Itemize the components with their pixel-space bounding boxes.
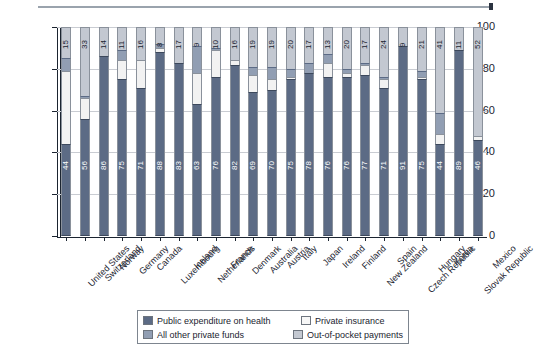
bar-top-value-label: 19 — [267, 31, 277, 59]
legend-item-other-private-funds[interactable]: All other private funds — [143, 330, 293, 340]
bar-top-value-label: 13 — [323, 31, 333, 59]
bar-japan[interactable]: 1778 — [304, 27, 314, 236]
legend-row-1: Public expenditure on health Private ins… — [143, 314, 403, 327]
bar-segment-privateins — [286, 77, 296, 79]
legend-item-private-insurance[interactable]: Private insurance — [301, 316, 385, 326]
bar-segment-privateins — [117, 60, 127, 79]
bar-mexico[interactable]: 5246 — [473, 27, 483, 236]
legend-swatch-other-private-funds-icon — [143, 330, 153, 339]
bar-top-value-label: 16 — [136, 31, 146, 59]
bar-segment-otherfunds — [435, 113, 445, 134]
x-axis-tick-mark — [328, 237, 329, 241]
bar-bottom-value-label: 44 — [435, 152, 445, 180]
bar-top-value-label: 20 — [286, 31, 296, 59]
bar-segment-public — [99, 56, 109, 236]
legend-item-public[interactable]: Public expenditure on health — [143, 316, 301, 326]
legend-swatch-private-insurance-icon — [301, 316, 311, 325]
bar-segment-privateins — [379, 79, 389, 87]
header-rule-cap — [489, 3, 493, 10]
bar-top-value-label: 14 — [99, 31, 109, 59]
bar-canada[interactable]: 1671 — [136, 27, 146, 236]
bar-bottom-value-label: 75 — [286, 152, 296, 180]
bar-bottom-value-label: 70 — [267, 152, 277, 180]
bar-bottom-value-label: 83 — [174, 152, 184, 180]
x-axis-tick-mark — [459, 237, 460, 241]
bar-bottom-value-label: 71 — [379, 152, 389, 180]
bar-top-value-label: 15 — [61, 31, 71, 59]
bar-segment-privateins — [230, 60, 240, 64]
x-axis-tick-mark — [141, 237, 142, 241]
bar-spain[interactable]: 2471 — [379, 27, 389, 236]
bar-segment-otherfunds — [360, 63, 370, 65]
bar-switzerland[interactable]: 3356 — [80, 27, 90, 236]
bar-korea[interactable]: 4144 — [435, 27, 445, 236]
bar-austria[interactable]: 1970 — [267, 27, 277, 236]
bar-top-value-label: 9 — [192, 31, 202, 59]
legend-row-2: All other private funds Out-of-pocket pa… — [143, 328, 403, 341]
x-axis-tick-mark — [384, 237, 385, 241]
bar-segment-privateins — [80, 98, 90, 119]
bar-segment-privateins — [192, 73, 202, 104]
x-axis-tick-mark — [235, 237, 236, 241]
x-axis-tick-mark — [179, 237, 180, 241]
bar-bottom-value-label: 77 — [360, 152, 370, 180]
bar-segment-privateins — [248, 75, 258, 92]
bar-hungary[interactable]: 2175 — [417, 27, 427, 236]
x-axis-label-iceland: Iceland — [192, 244, 219, 271]
bar-netherlands[interactable]: 963 — [192, 27, 202, 236]
x-axis-tick-mark — [160, 237, 161, 241]
bar-denmark[interactable]: 1682 — [230, 27, 240, 236]
legend-swatch-public-icon — [143, 316, 153, 325]
bar-bottom-value-label: 56 — [80, 152, 90, 180]
x-axis-tick-mark — [440, 237, 441, 241]
bar-germany[interactable]: 1175 — [117, 27, 127, 236]
bar-bottom-value-label: 91 — [398, 152, 408, 180]
bar-segment-privateins — [323, 63, 333, 78]
legend-label-public: Public expenditure on health — [157, 316, 271, 326]
bar-top-value-label: 24 — [379, 31, 389, 59]
bar-segment-privateins — [342, 73, 352, 77]
bar-norway[interactable]: 1486 — [99, 27, 109, 236]
bar-australia[interactable]: 1969 — [248, 27, 258, 236]
plot-area: 1544335614861175167188817839631076168219… — [57, 27, 487, 236]
bar-top-value-label: 10 — [211, 31, 221, 59]
legend-item-out-of-pocket[interactable]: Out-of-pocket payments — [293, 330, 403, 340]
bar-segment-otherfunds — [80, 96, 90, 98]
bar-luxembourg[interactable]: 888 — [155, 27, 165, 236]
bar-segment-privateins — [61, 71, 71, 144]
bar-bottom-value-label: 89 — [454, 152, 464, 180]
bar-bottom-value-label: 69 — [248, 152, 258, 180]
bar-segment-otherfunds — [286, 69, 296, 77]
bar-bottom-value-label: 75 — [117, 152, 127, 180]
bar-iceland[interactable]: 1783 — [174, 27, 184, 236]
bar-top-value-label: 33 — [80, 31, 90, 59]
bar-italy[interactable]: 2075 — [286, 27, 296, 236]
bar-segment-privateins — [417, 77, 427, 79]
bar-segment-otherfunds — [379, 77, 389, 79]
x-axis-tick-mark — [66, 237, 67, 241]
bar-top-value-label: 52 — [473, 31, 483, 59]
bar-bottom-value-label: 78 — [304, 152, 314, 180]
legend-swatch-out-of-pocket-icon — [293, 330, 303, 339]
bar-segment-public — [174, 63, 184, 236]
bar-ireland[interactable]: 1376 — [323, 27, 333, 236]
bar-united-states[interactable]: 1544 — [61, 27, 71, 236]
legend-label-out-of-pocket: Out-of-pocket payments — [307, 330, 403, 340]
bar-top-value-label: 16 — [230, 31, 240, 59]
bar-bottom-value-label: 76 — [211, 152, 221, 180]
bar-top-value-label: 17 — [304, 31, 314, 59]
bar-top-value-label: 17 — [174, 31, 184, 59]
bar-top-value-label: 17 — [360, 31, 370, 59]
x-axis-tick-mark — [197, 237, 198, 241]
bar-bottom-value-label: 88 — [155, 152, 165, 180]
bar-segment-privateins — [473, 136, 483, 140]
bar-bottom-value-label: 76 — [342, 152, 352, 180]
bar-slovak-republic[interactable]: 1189 — [454, 27, 464, 236]
bar-new-zealand[interactable]: 1777 — [360, 27, 370, 236]
bar-finland[interactable]: 2076 — [342, 27, 352, 236]
chart-legend: Public expenditure on health Private ins… — [137, 310, 409, 344]
header-rule — [38, 6, 493, 8]
bar-france[interactable]: 1076 — [211, 27, 221, 236]
bar-czech-republic[interactable]: 991 — [398, 27, 408, 236]
